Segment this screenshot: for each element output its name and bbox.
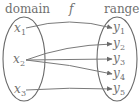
range-element-y1: y 1 — [112, 20, 125, 36]
range-element-y3: y 3 — [112, 51, 125, 67]
svg-text:3: 3 — [21, 89, 26, 98]
domain-label: domain — [5, 2, 50, 16]
svg-text:y: y — [112, 51, 120, 65]
arrow-x1-y1 — [26, 22, 112, 28]
svg-text:y: y — [112, 81, 120, 95]
domain-element-x2: x 2 — [13, 52, 25, 68]
range-element-y2: y 2 — [112, 36, 125, 52]
svg-text:x: x — [14, 82, 21, 96]
arrow-x2-y2 — [26, 44, 112, 60]
svg-text:1: 1 — [21, 28, 26, 37]
range-element-y4: y 4 — [112, 66, 125, 82]
function-label: f — [68, 2, 76, 16]
svg-text:1: 1 — [120, 27, 125, 36]
svg-text:y: y — [112, 66, 120, 80]
function-mapping-diagram: domain f range x 1 x 2 x 3 y 1 y 2 y 3 y… — [0, 0, 140, 103]
svg-text:y: y — [112, 36, 120, 50]
range-element-y5: y 5 — [112, 81, 125, 97]
domain-element-x1: x 1 — [14, 21, 26, 37]
arrow-x2-y3 — [26, 59, 112, 60]
svg-text:4: 4 — [120, 73, 125, 82]
svg-text:2: 2 — [20, 59, 25, 68]
svg-text:2: 2 — [120, 43, 125, 52]
domain-element-x3: x 3 — [14, 82, 26, 98]
svg-text:5: 5 — [120, 88, 125, 97]
svg-text:3: 3 — [120, 58, 125, 67]
range-label: range — [104, 2, 139, 16]
arrow-x2-y4 — [26, 60, 112, 74]
svg-text:y: y — [112, 20, 120, 34]
svg-text:x: x — [14, 21, 21, 35]
svg-text:x: x — [13, 52, 20, 66]
